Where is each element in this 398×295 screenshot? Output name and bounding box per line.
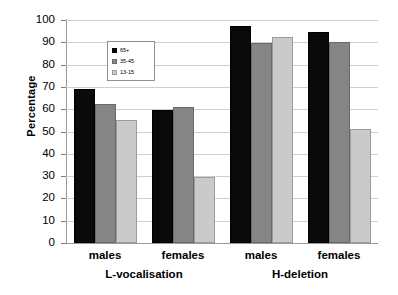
bar: [230, 26, 251, 243]
y-axis-tick-label: 70: [15, 80, 55, 92]
bar: [173, 107, 194, 243]
x-axis-category-label: males: [60, 249, 150, 261]
legend-item[interactable]: 65+: [112, 45, 151, 55]
x-axis-group-label: L-vocalisation: [54, 268, 234, 280]
bar: [194, 177, 215, 243]
gridline: [66, 20, 378, 21]
y-axis-tick-label: 60: [15, 102, 55, 114]
x-axis-category-label: females: [138, 249, 228, 261]
y-axis-tick-label: 90: [15, 35, 55, 47]
bar: [251, 43, 272, 243]
legend-item-label: 65+: [120, 47, 129, 53]
legend-item[interactable]: 13-15: [112, 67, 151, 77]
y-axis-tick-label: 80: [15, 58, 55, 70]
legend-item[interactable]: 35-45: [112, 56, 151, 66]
y-axis-tick-label: 50: [15, 125, 55, 137]
y-axis-tick: [61, 243, 66, 244]
bar: [329, 42, 350, 243]
legend-swatch-icon: [112, 48, 117, 53]
legend-item-label: 13-15: [120, 69, 134, 75]
bar: [152, 110, 173, 243]
legend-item-label: 35-45: [120, 58, 134, 64]
bar: [350, 129, 371, 243]
y-axis-tick-label: 0: [15, 236, 55, 248]
bar: [74, 89, 95, 243]
y-axis-tick-label: 30: [15, 169, 55, 181]
x-axis-category-label: males: [216, 249, 306, 261]
legend-swatch-icon: [112, 70, 117, 75]
bar-chart: Percentage 1009080706050403020100 malesf…: [0, 0, 398, 295]
x-axis-group-label: H-deletion: [210, 268, 390, 280]
bar: [116, 120, 137, 243]
bar: [272, 37, 293, 243]
bar: [308, 32, 329, 243]
y-axis-tick-label: 40: [15, 147, 55, 159]
legend: 65+ 35-45 13-15: [107, 41, 155, 81]
x-axis-line: [66, 243, 378, 244]
y-axis-tick-label: 20: [15, 191, 55, 203]
legend-swatch-icon: [112, 59, 117, 64]
x-axis-category-label: females: [294, 249, 384, 261]
y-axis-tick-label: 100: [15, 13, 55, 25]
bar: [95, 104, 116, 243]
y-axis-tick-label: 10: [15, 214, 55, 226]
